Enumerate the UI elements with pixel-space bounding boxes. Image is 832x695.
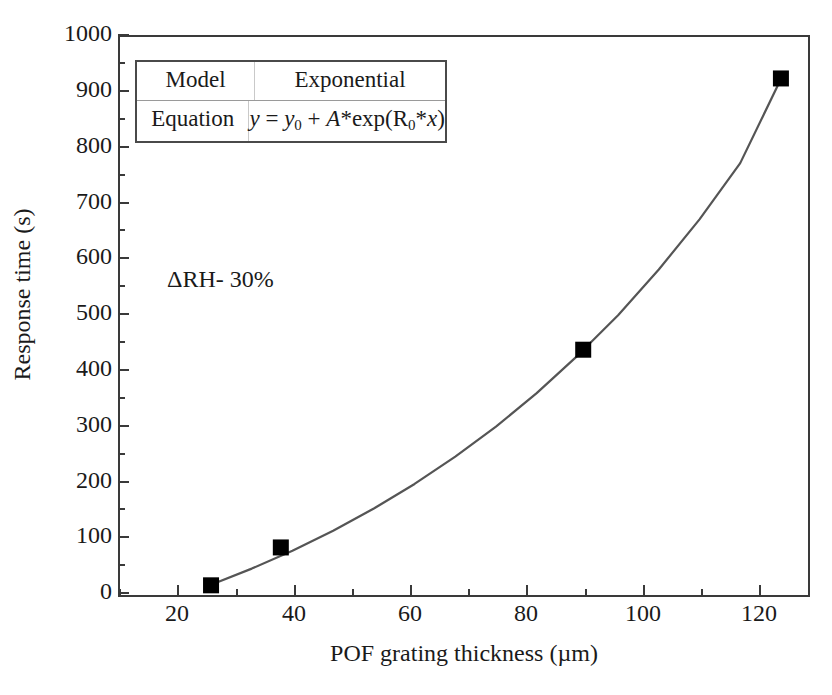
eq-x: x (427, 106, 437, 131)
eq-R: R (393, 106, 408, 131)
eq-star2: * (416, 106, 428, 131)
eq-y: y (249, 106, 259, 131)
info-table-key-model: Model (137, 62, 255, 100)
chart-figure: 1000 900 800 700 600 500 400 300 200 100… (0, 0, 832, 695)
eq-A: A (326, 106, 340, 131)
eq-R-sub: 0 (408, 117, 416, 133)
info-table-value-model: Exponential (255, 62, 445, 100)
eq-close: ) (437, 106, 445, 131)
eq-plus: + (302, 106, 326, 131)
eq-y0: y (284, 106, 294, 131)
data-point-markers (203, 70, 789, 593)
exponential-fit-curve (211, 79, 781, 585)
model-info-table: Model Exponential Equation y = y0 + A*ex… (135, 60, 447, 143)
delta-rh-annotation: ΔRH- 30% (167, 266, 274, 293)
data-point-marker (273, 539, 289, 555)
equation-expression: y = y0 + A*exp(R0*x) (249, 106, 445, 131)
info-table-value-equation: y = y0 + A*exp(R0*x) (249, 101, 445, 141)
eq-equals: = (260, 106, 284, 131)
info-table-row-model: Model Exponential (137, 62, 445, 101)
eq-exp: exp( (352, 106, 393, 131)
data-point-marker (575, 342, 591, 358)
data-point-marker (773, 70, 789, 86)
data-point-marker (203, 577, 219, 593)
eq-star1: * (340, 106, 352, 131)
info-table-key-equation: Equation (137, 101, 249, 141)
info-table-row-equation: Equation y = y0 + A*exp(R0*x) (137, 101, 445, 141)
eq-y0-sub: 0 (294, 117, 302, 133)
